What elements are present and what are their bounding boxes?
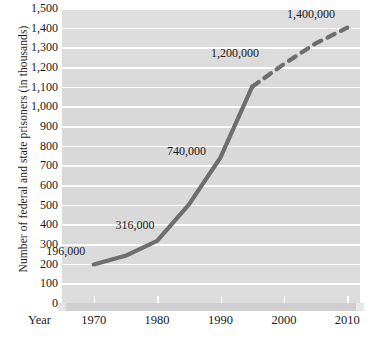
x-tick-label: 1990: [208, 313, 233, 328]
x-tick-label: 1970: [81, 313, 106, 328]
x-tick-label: 2000: [271, 313, 296, 328]
data-value-label: 196,000: [46, 244, 85, 259]
x-tick-label: 2010: [335, 313, 360, 328]
prisoner-population-line-chart: Number of federal and state prisoners (i…: [0, 0, 370, 338]
x-tick-label: 1980: [145, 313, 170, 328]
series-line-actual: [94, 87, 253, 265]
x-axis-title: Year: [28, 313, 51, 328]
data-value-label: 316,000: [116, 217, 155, 232]
data-value-label: 1,400,000: [287, 6, 335, 21]
series-overlay: [0, 0, 370, 338]
data-value-label: 740,000: [167, 144, 206, 159]
data-value-label: 1,200,000: [211, 46, 259, 61]
series-line-projected: [252, 28, 347, 87]
